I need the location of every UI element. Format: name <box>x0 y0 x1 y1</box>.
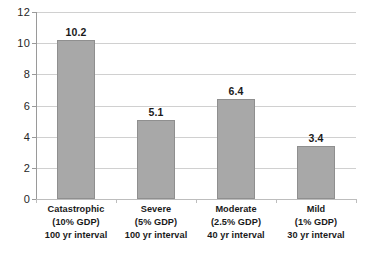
x-label-severe-gdp: (5% GDP) <box>116 216 196 229</box>
bar-catastrophic[interactable] <box>57 40 95 199</box>
x-label-catastrophic-interval: 100 yr interval <box>36 229 116 242</box>
bar-value-label-mild: 3.4 <box>297 133 335 144</box>
gridline-12 <box>36 12 356 13</box>
x-label-mild-interval: 30 yr interval <box>276 229 356 242</box>
page-scan-artifact <box>26 256 346 261</box>
x-label-mild: Mild (1% GDP) 30 yr interval <box>276 203 356 242</box>
y-tick-label-4: 4 <box>0 132 30 143</box>
x-label-moderate-gdp: (2.5% GDP) <box>196 216 276 229</box>
x-label-severe-interval: 100 yr interval <box>116 229 196 242</box>
x-label-catastrophic-gdp: (10% GDP) <box>36 216 116 229</box>
x-label-catastrophic-name: Catastrophic <box>36 203 116 216</box>
x-axis-labels: Catastrophic (10% GDP) 100 yr interval S… <box>0 203 373 249</box>
x-label-moderate-interval: 40 yr interval <box>196 229 276 242</box>
y-tick-label-6: 6 <box>0 101 30 112</box>
x-label-mild-name: Mild <box>276 203 356 216</box>
bar-moderate[interactable] <box>217 99 255 199</box>
y-axis-line <box>36 12 37 200</box>
x-label-moderate: Moderate (2.5% GDP) 40 yr interval <box>196 203 276 242</box>
y-tick-label-8: 8 <box>0 69 30 80</box>
bar-severe[interactable] <box>137 120 175 199</box>
y-tick-mark-2 <box>32 168 36 169</box>
x-label-severe: Severe (5% GDP) 100 yr interval <box>116 203 196 242</box>
y-tick-label-12: 12 <box>0 7 30 18</box>
x-label-severe-name: Severe <box>116 203 196 216</box>
y-tick-mark-6 <box>32 106 36 107</box>
bar-chart: 12 10 8 6 4 2 0 10.2 5.1 6.4 3.4 Catastr… <box>0 0 373 262</box>
bar-mild[interactable] <box>297 146 335 199</box>
y-tick-label-2: 2 <box>0 163 30 174</box>
y-tick-mark-8 <box>32 74 36 75</box>
x-label-moderate-name: Moderate <box>196 203 276 216</box>
bar-value-label-moderate: 6.4 <box>217 86 255 97</box>
y-tick-label-10: 10 <box>0 38 30 49</box>
y-tick-mark-12 <box>32 12 36 13</box>
x-label-mild-gdp: (1% GDP) <box>276 216 356 229</box>
y-tick-mark-4 <box>32 137 36 138</box>
plot-area: 12 10 8 6 4 2 0 10.2 5.1 6.4 3.4 <box>0 0 373 200</box>
x-label-catastrophic: Catastrophic (10% GDP) 100 yr interval <box>36 203 116 242</box>
y-tick-mark-10 <box>32 43 36 44</box>
bar-value-label-severe: 5.1 <box>137 107 175 118</box>
bar-value-label-catastrophic: 10.2 <box>57 27 95 38</box>
